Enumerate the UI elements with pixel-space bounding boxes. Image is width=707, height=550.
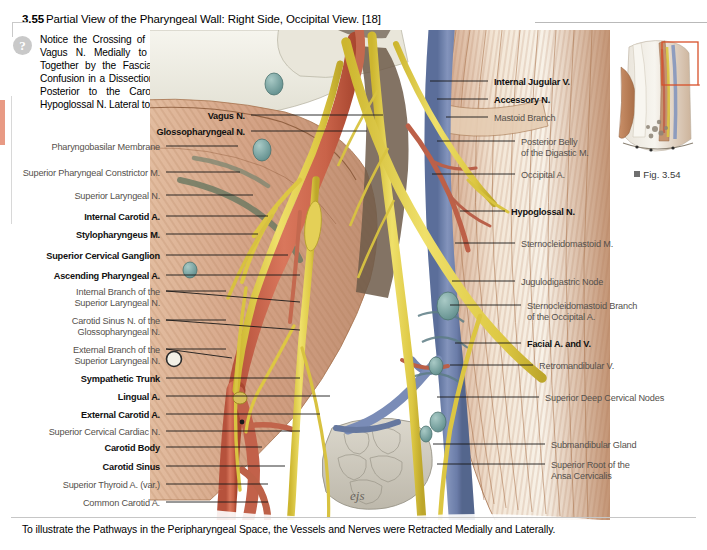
- anatomy-label-internal-jugular-v: Internal Jugular V.: [494, 77, 570, 88]
- anatomy-label-internal-carotid-a: Internal Carotid A.: [84, 212, 160, 223]
- anatomy-label-sternocleidomastoid-m: Sternocleidomastoid M.: [521, 239, 613, 250]
- anatomy-label-hypoglossal-n: Hypoglossal N.: [511, 207, 575, 218]
- label-line-1: Sympathetic Trunk: [81, 374, 160, 384]
- label-line-1: Carotid Sinus N. of the: [72, 316, 160, 326]
- label-line-1: Mastoid Branch: [494, 113, 555, 123]
- label-line-2: Ansa Cervicalis: [551, 471, 630, 482]
- label-line-1: Facial A. and V.: [527, 339, 591, 349]
- label-line-1: Carotid Body: [104, 443, 160, 453]
- label-line-2: Superior Laryngeal N.: [74, 298, 160, 309]
- label-line-1: Superior Root of the: [551, 460, 630, 470]
- label-line-1: Lingual A.: [118, 392, 160, 402]
- label-line-1: Internal Carotid A.: [84, 212, 160, 222]
- title-divider: [535, 22, 707, 23]
- anatomy-label-jugulodigastric-node: Jugulodigastric Node: [521, 277, 603, 288]
- anatomy-label-superior-deep-cervical-nodes: Superior Deep Cervical Nodes: [545, 393, 664, 404]
- label-line-1: Accessory N.: [494, 95, 550, 105]
- label-line-1: Internal Branch of the: [76, 287, 160, 297]
- chapter-edge-tab: [0, 100, 5, 145]
- related-figure-thumbnail[interactable]: Fig. 3.54: [615, 33, 700, 193]
- anatomy-label-glossopharyngeal-n: Glossopharyngeal N.: [157, 127, 245, 138]
- anatomy-label-stylopharyngeus-m: Stylopharyngeus M.: [76, 230, 160, 241]
- anatomy-label-superior-thyroid-a-var: Superior Thyroid A. (var.): [63, 480, 160, 491]
- label-line-1: Jugulodigastric Node: [521, 277, 603, 287]
- anatomy-label-facial-a-and-v: Facial A. and V.: [527, 339, 591, 350]
- label-line-1: Superior Cervical Cardiac N.: [49, 427, 160, 437]
- figure-caption: To illustrate the Pathways in the Periph…: [22, 524, 692, 535]
- label-line-2: of the Occipital A.: [527, 312, 637, 323]
- label-line-2: Glossopharyngeal N.: [72, 327, 160, 338]
- thumbnail-caption: Fig. 3.54: [615, 169, 700, 180]
- label-line-1: Ascending Pharyngeal A.: [54, 271, 160, 281]
- anatomy-label-sympathetic-trunk: Sympathetic Trunk: [81, 374, 160, 385]
- label-line-1: Superior Cervical Ganglion: [46, 251, 160, 261]
- anatomy-label-sternocleidomastoid-branch: Sternocleidomastoid Branchof the Occipit…: [527, 301, 637, 322]
- label-line-1: Internal Jugular V.: [494, 77, 570, 87]
- label-line-1: Vagus N.: [208, 111, 245, 121]
- label-line-1: Sternocleidomastoid Branch: [527, 301, 637, 311]
- label-line-1: Carotid Sinus: [103, 462, 160, 472]
- label-line-1: Superior Thyroid A. (var.): [63, 480, 160, 490]
- anatomy-label-superior-pharyngeal-constrictor-m: Superior Pharyngeal Constrictor M.: [23, 168, 160, 179]
- label-line-2: of the Digastic M.: [521, 148, 589, 159]
- label-line-1: Posterior Belly: [521, 137, 578, 147]
- anatomy-label-lingual-a: Lingual A.: [118, 392, 160, 403]
- label-line-1: Hypoglossal N.: [511, 207, 575, 217]
- anatomy-label-accessory-n: Accessory N.: [494, 95, 550, 106]
- svg-text:ejs: ejs: [350, 488, 364, 503]
- anatomy-label-posterior-belly: Posterior Bellyof the Digastic M.: [521, 137, 589, 158]
- label-line-1: Stylopharyngeus M.: [76, 230, 160, 240]
- thumbnail-image: [615, 33, 700, 165]
- page-title: Partial View of the Pharyngeal Wall: Rig…: [46, 13, 381, 25]
- anatomy-label-vagus-n: Vagus N.: [208, 111, 245, 122]
- label-line-1: Superior Deep Cervical Nodes: [545, 393, 664, 403]
- anatomy-label-retromandibular-v: Retromandibular V.: [539, 361, 614, 372]
- anatomy-label-superior-cervical-cardiac-n: Superior Cervical Cardiac N.: [49, 427, 160, 438]
- anatomy-label-external-branch-of-the: External Branch of theSuperior Laryngeal…: [73, 345, 160, 366]
- anatomy-label-common-carotid-a: Common Carotid A.: [83, 498, 160, 509]
- square-bullet-icon: [634, 171, 640, 177]
- label-line-1: Glossopharyngeal N.: [157, 127, 245, 137]
- caption-divider: [11, 517, 696, 518]
- label-line-1: External Branch of the: [73, 345, 160, 355]
- anatomy-label-carotid-sinus-n-of-the: Carotid Sinus N. of theGlossopharyngeal …: [72, 316, 160, 337]
- anatomy-label-superior-laryngeal-n: Superior Laryngeal N.: [74, 191, 160, 202]
- label-line-1: External Carotid A.: [81, 410, 160, 420]
- anatomy-label-pharyngobasilar-membrane: Pharyngobasilar Membrane: [51, 142, 160, 153]
- label-line-2: Superior Laryngeal N.: [73, 356, 160, 367]
- question-mark-icon: ?: [13, 36, 32, 55]
- left-margin-rule: [11, 96, 12, 224]
- anatomy-label-submandibular-gland: Submandibular Gland: [551, 440, 636, 451]
- thumbnail-caption-text: Fig. 3.54: [643, 169, 680, 180]
- label-line-1: Retromandibular V.: [539, 361, 614, 371]
- anatomy-label-superior-root-of-the: Superior Root of theAnsa Cervicalis: [551, 460, 630, 481]
- anatomy-label-internal-branch-of-the: Internal Branch of theSuperior Laryngeal…: [74, 287, 160, 308]
- label-line-1: Sternocleidomastoid M.: [521, 239, 613, 249]
- corner-bracket: [12, 22, 27, 37]
- label-line-1: Superior Laryngeal N.: [74, 191, 160, 201]
- anatomy-label-ascending-pharyngeal-a: Ascending Pharyngeal A.: [54, 271, 160, 282]
- label-line-1: Common Carotid A.: [83, 498, 160, 508]
- anatomy-label-mastoid-branch: Mastoid Branch: [494, 113, 555, 124]
- label-line-1: Submandibular Gland: [551, 440, 636, 450]
- figure-page: 3.55 Partial View of the Pharyngeal Wall…: [0, 0, 707, 550]
- anatomy-label-occipital-a: Occipital A.: [521, 170, 565, 181]
- anatomy-label-superior-cervical-ganglion: Superior Cervical Ganglion: [46, 251, 160, 262]
- anatomy-label-carotid-sinus: Carotid Sinus: [103, 462, 160, 473]
- anatomy-label-external-carotid-a: External Carotid A.: [81, 410, 160, 421]
- anatomy-label-carotid-body: Carotid Body: [104, 443, 160, 454]
- label-line-1: Superior Pharyngeal Constrictor M.: [23, 168, 160, 178]
- label-line-1: Occipital A.: [521, 170, 565, 180]
- label-line-1: Pharyngobasilar Membrane: [51, 142, 160, 152]
